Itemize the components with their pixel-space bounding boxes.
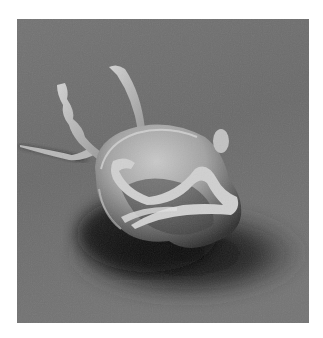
protozoan-cell-illustration	[17, 19, 309, 323]
sem-micrograph	[17, 19, 309, 323]
micrograph-noise	[17, 19, 309, 323]
